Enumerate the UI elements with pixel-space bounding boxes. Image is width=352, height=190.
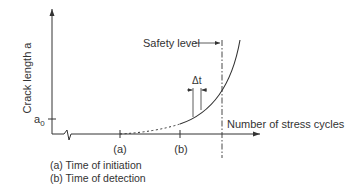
delta-t-marker [187,88,207,117]
a0-label: a0 [34,113,45,128]
y-axis-label: Crack length a [21,42,33,114]
safety-level-label: Safety level [143,37,200,49]
x-axis [52,130,260,140]
x-axis-label: Number of stress cycles [227,118,345,130]
delta-t-label: Δt [192,75,202,86]
legend-item-b: (b) Time of detection [50,172,146,184]
crack-curve-undetected [120,124,180,134]
tick-a-label: (a) [113,143,126,155]
tick-b-label: (b) [174,143,187,155]
crack-growth-diagram: Crack length a a0 Safety level Δt Number… [0,0,352,190]
crack-curve-detected [180,40,240,124]
legend-item-a: (a) Time of initiation [50,159,142,171]
